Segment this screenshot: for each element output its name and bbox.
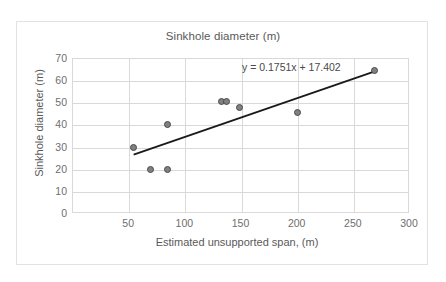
- y-tick-label: 20: [27, 164, 67, 174]
- y-tick-label: 60: [27, 75, 67, 85]
- trendline-equation-label: y = 0.1751x + 17.402: [242, 61, 341, 73]
- y-axis-tick-labels: 010203040506070: [22, 58, 67, 213]
- data-point: [236, 104, 243, 111]
- x-tick-label: 100: [164, 218, 204, 229]
- x-axis-title: Estimated unsupported span, (m): [57, 236, 417, 248]
- data-point: [294, 109, 301, 116]
- chart-container: Sinkhole diameter (m) Sinkhole diameter …: [16, 21, 428, 265]
- y-tick-label: 70: [27, 53, 67, 63]
- chart-title: Sinkhole diameter (m): [17, 30, 429, 42]
- x-tick-label: 50: [108, 218, 148, 229]
- y-tick-label: 10: [27, 186, 67, 196]
- y-tick-label: 30: [27, 142, 67, 152]
- x-axis-tick-labels: 50100150200250300: [72, 218, 409, 232]
- plot-area: y = 0.1751x + 17.402: [72, 58, 409, 213]
- trendline-segment: [134, 72, 374, 155]
- data-point: [164, 166, 171, 173]
- x-tick-label: 200: [277, 218, 317, 229]
- x-tick-label: 250: [333, 218, 373, 229]
- data-point: [164, 121, 171, 128]
- x-tick-label: 300: [389, 218, 429, 229]
- trendline: [73, 59, 410, 214]
- y-tick-label: 0: [27, 208, 67, 218]
- y-tick-label: 50: [27, 97, 67, 107]
- x-tick-label: 150: [221, 218, 261, 229]
- data-point: [371, 67, 378, 74]
- y-tick-label: 40: [27, 119, 67, 129]
- data-point: [223, 98, 230, 105]
